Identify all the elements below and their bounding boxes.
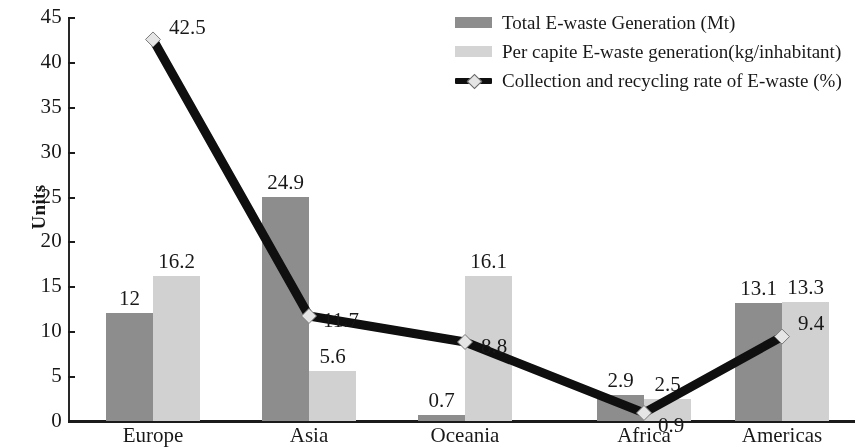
combo-bar-line-chart: Units 454035302520151050 1216.224.95.60.… [0, 0, 855, 448]
x-axis-category-label-americas: Americas [695, 424, 855, 446]
legend-label-total-ewaste: Total E-waste Generation (Mt) [502, 13, 735, 33]
chart-legend: Total E-waste Generation (Mt) Per capite… [455, 10, 855, 97]
line-value-label: 8.8 [481, 336, 507, 357]
line-value-label: 42.5 [169, 17, 206, 38]
x-axis-category-label-oceania: Oceania [378, 424, 552, 446]
legend-label-per-capita: Per capite E-waste generation(kg/inhabit… [502, 42, 841, 62]
legend-swatch-square-light-icon [455, 46, 492, 57]
legend-item-per-capita: Per capite E-waste generation(kg/inhabit… [455, 39, 855, 64]
x-axis-category-label-asia: Asia [222, 424, 396, 446]
line-value-label: 9.4 [798, 313, 824, 334]
legend-swatch-square-dark-icon [455, 17, 492, 28]
x-axis-category-label-europe: Europe [66, 424, 240, 446]
legend-item-total-ewaste: Total E-waste Generation (Mt) [455, 10, 855, 35]
legend-item-collection-rate: Collection and recycling rate of E-waste… [455, 68, 855, 93]
line-value-label: 11.7 [323, 310, 359, 331]
legend-line-diamond-icon [455, 74, 492, 87]
legend-label-collection-rate: Collection and recycling rate of E-waste… [502, 71, 842, 91]
